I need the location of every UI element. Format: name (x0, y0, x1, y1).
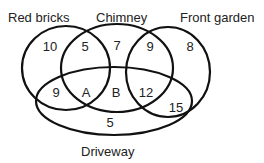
chimney-label: Chimney (96, 10, 147, 25)
region-red-bricks-chimney: 5 (81, 39, 88, 54)
region-front-garden-only: 8 (186, 39, 193, 54)
region-chimney-front-garden-driveway: 12 (139, 85, 153, 100)
region-red-bricks-chimney-driveway: A (82, 85, 91, 100)
region-red-bricks-only: 10 (43, 39, 57, 54)
front-garden-label: Front garden (180, 10, 254, 25)
region-front-garden-driveway: 15 (169, 100, 183, 115)
region-chimney-driveway: B (112, 85, 121, 100)
region-chimney-front-garden: 9 (146, 39, 153, 54)
region-chimney-only: 7 (113, 38, 120, 53)
driveway-label: Driveway (81, 144, 134, 159)
red-bricks-label: Red bricks (8, 10, 69, 25)
region-red-bricks-driveway: 9 (52, 85, 59, 100)
region-driveway-only: 5 (106, 115, 113, 130)
